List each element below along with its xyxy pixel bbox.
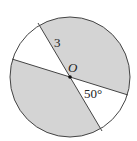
circle-diagram: 3 O 50° [0,0,137,141]
center-label: O [68,60,78,75]
radius-label: 3 [54,35,61,50]
center-point [68,75,72,79]
angle-label: 50° [84,86,102,101]
